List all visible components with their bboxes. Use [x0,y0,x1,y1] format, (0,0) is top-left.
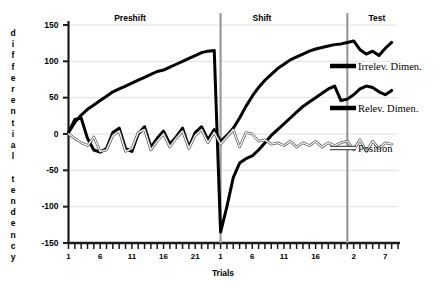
legend-label-position: Position [358,143,392,154]
series-irrelev-dimen [69,41,392,152]
y-tick-label: 150 [29,20,59,30]
chart-figure: d i f f e r e n t i a l t e n d e n c y … [0,0,442,289]
x-tick-label: 16 [303,252,329,261]
x-tick-label: 6 [239,252,265,261]
x-tick-label: 2 [341,252,367,261]
y-tick-label: 50 [29,92,59,102]
y-tick-label: 100 [29,56,59,66]
legend [330,66,356,148]
x-tick-label: 21 [182,252,208,261]
y-tick-label: 0 [29,129,59,139]
x-axis [68,243,401,249]
y-tick-label: -50 [29,165,59,175]
legend-label-irrelev-dimen: Irrelev. Dimen. [358,61,422,72]
x-tick-label: 1 [56,252,82,261]
x-tick-label: 7 [372,252,398,261]
x-tick-label: 11 [271,252,297,261]
x-tick-label: 16 [151,252,177,261]
y-axis-title: d i f f e r e n t i a l t e n d e n c y [4,28,22,263]
x-tick-label: 6 [87,252,113,261]
section-label-test: Test [352,13,402,23]
x-tick-label: 11 [119,252,145,261]
legend-label-relev-dimen: Relev. Dimen. [358,103,418,114]
y-tick-label: -100 [29,201,59,211]
section-label-shift: Shift [232,13,292,23]
section-label-preshift: Preshift [90,13,170,23]
x-tick-label: 1 [208,252,234,261]
x-axis-title: Trials [193,268,253,278]
y-tick-label: -150 [29,238,59,248]
